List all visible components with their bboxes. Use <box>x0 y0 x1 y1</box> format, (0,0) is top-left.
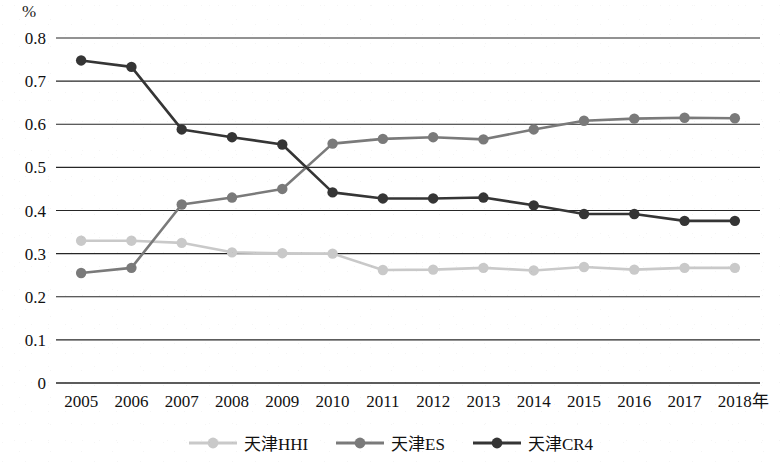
x-axis-tick-label: 2014 <box>517 392 552 411</box>
data-point-marker <box>529 124 539 134</box>
data-point-marker <box>478 192 488 202</box>
data-point-marker <box>126 235 136 245</box>
chart-container: % 0.80.70.60.50.40.30.20.10 200520062007… <box>0 0 780 464</box>
x-axis-tick-label: 2007 <box>165 392 200 411</box>
data-point-marker <box>579 209 589 219</box>
data-point-marker <box>629 113 639 123</box>
series-line <box>81 118 735 273</box>
data-point-marker <box>679 113 689 123</box>
data-point-marker <box>327 187 337 197</box>
y-axis-tick-label: 0.1 <box>25 331 46 350</box>
y-axis-tick-label: 0.8 <box>25 29 46 48</box>
data-point-marker <box>730 113 740 123</box>
legend-label: 天津ES <box>391 430 445 455</box>
x-axis-tick-label: 2015 <box>567 392 601 411</box>
series-天津HHI <box>76 235 740 275</box>
data-point-marker <box>76 55 86 65</box>
data-point-marker <box>327 138 337 148</box>
data-point-marker <box>529 265 539 275</box>
legend-item-天津HHI[interactable]: 天津HHI <box>187 430 308 455</box>
legend-marker-icon <box>334 435 386 451</box>
x-axis-tick-label: 2017 <box>668 392 703 411</box>
data-point-marker <box>428 132 438 142</box>
legend-marker-icon <box>187 435 239 451</box>
data-point-marker <box>327 248 337 258</box>
data-point-marker <box>126 263 136 273</box>
data-point-marker <box>478 134 488 144</box>
data-point-marker <box>529 200 539 210</box>
x-axis-tick-label: 2016 <box>617 392 651 411</box>
x-axis-tick-label: 2011 <box>366 392 399 411</box>
data-point-marker <box>579 116 589 126</box>
data-point-marker <box>227 192 237 202</box>
chart-legend: 天津HHI天津ES天津CR4 <box>0 430 780 455</box>
data-point-marker <box>277 139 287 149</box>
data-point-marker <box>428 264 438 274</box>
y-axis-tick-label: 0.7 <box>25 72 47 91</box>
data-point-marker <box>177 238 187 248</box>
data-point-marker <box>277 248 287 258</box>
x-axis-tick-label: 2008 <box>215 392 249 411</box>
x-axis-tick-label: 2006 <box>114 392 148 411</box>
y-axis-tick-label: 0.3 <box>25 245 46 264</box>
y-axis-tick-label: 0 <box>38 374 47 393</box>
x-axis-tick-label: 2018 <box>718 392 752 411</box>
legend-marker-icon <box>471 435 523 451</box>
data-point-marker <box>227 247 237 257</box>
line-chart-svg: 0.80.70.60.50.40.30.20.10 20052006200720… <box>0 0 780 464</box>
x-axis-tick-label: 2005 <box>64 392 98 411</box>
y-axis-tick-labels: 0.80.70.60.50.40.30.20.10 <box>25 29 47 393</box>
x-axis-name: 年 <box>752 392 769 411</box>
legend-label: 天津CR4 <box>528 430 593 455</box>
y-axis-tick-label: 0.5 <box>25 158 46 177</box>
data-point-marker <box>227 132 237 142</box>
data-point-marker <box>177 124 187 134</box>
data-point-marker <box>730 263 740 273</box>
legend-label: 天津HHI <box>244 430 308 455</box>
data-point-marker <box>730 216 740 226</box>
data-point-marker <box>428 193 438 203</box>
x-axis-tick-label: 2010 <box>316 392 350 411</box>
x-axis-tick-label: 2013 <box>466 392 500 411</box>
legend-item-天津ES[interactable]: 天津ES <box>334 430 445 455</box>
data-point-marker <box>378 134 388 144</box>
data-point-marker <box>177 199 187 209</box>
data-point-marker <box>679 263 689 273</box>
data-point-marker <box>277 184 287 194</box>
legend-item-天津CR4[interactable]: 天津CR4 <box>471 430 593 455</box>
data-point-marker <box>629 209 639 219</box>
data-point-marker <box>76 235 86 245</box>
y-axis-tick-label: 0.2 <box>25 288 46 307</box>
x-axis-tick-labels: 2005200620072008200920102011201220132014… <box>64 392 752 411</box>
data-point-marker <box>378 193 388 203</box>
data-point-marker <box>378 265 388 275</box>
data-point-marker <box>579 262 589 272</box>
data-point-marker <box>76 268 86 278</box>
series-line <box>81 60 735 220</box>
data-point-marker <box>679 216 689 226</box>
x-axis-tick-label: 2009 <box>265 392 299 411</box>
series-lines <box>76 55 740 278</box>
data-point-marker <box>126 62 136 72</box>
gridlines <box>56 38 760 383</box>
y-axis-tick-label: 0.6 <box>25 115 46 134</box>
data-point-marker <box>629 264 639 274</box>
data-point-marker <box>478 263 488 273</box>
x-axis-tick-label: 2012 <box>416 392 450 411</box>
y-axis-tick-label: 0.4 <box>25 202 47 221</box>
